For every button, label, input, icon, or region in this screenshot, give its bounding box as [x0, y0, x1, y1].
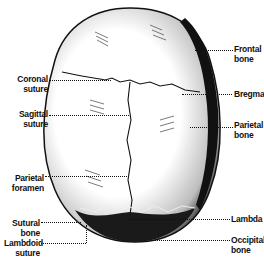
label-frontal-bone: Frontal bone — [234, 44, 264, 64]
label-sutural-bone: Sutural bone — [4, 218, 40, 238]
leader-lambda — [130, 219, 230, 220]
label-parietal-bone: Parietal bone — [234, 120, 264, 140]
label-lambda: Lambda — [231, 214, 264, 224]
label-coronal-suture: Coronal suture — [4, 74, 48, 94]
leader-sagittal-suture — [49, 115, 129, 116]
label-sagittal-suture: Sagittal suture — [4, 109, 48, 129]
label-lambdoid-suture: Lambdoid suture — [4, 238, 40, 258]
leader-parietal-foramen — [45, 176, 129, 177]
leader-coronal-suture — [49, 80, 111, 81]
leader-frontal-bone — [195, 50, 233, 51]
leader-bregma — [182, 94, 232, 95]
label-occipital-bone: Occipital bone — [231, 235, 264, 255]
leader-occipital-bone — [152, 240, 230, 241]
label-bregma: Bregma — [234, 89, 264, 99]
leader-lambdoid-suture — [41, 243, 86, 244]
leader-sutural-bone — [41, 222, 81, 223]
skull-diagram: Coronal suture Sagittal suture Parietal … — [0, 0, 264, 260]
leader-lambdoid-suture-vertical — [86, 225, 87, 243]
label-parietal-foramen: Parietal foramen — [4, 173, 44, 193]
leader-parietal-bone — [190, 127, 233, 128]
